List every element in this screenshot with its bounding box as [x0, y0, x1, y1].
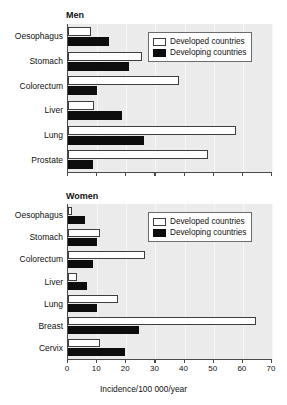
x-tick-label: 50 [201, 364, 225, 373]
bar-developing [68, 260, 93, 268]
x-tick [96, 359, 97, 363]
category-label: Oesophagus [15, 31, 63, 41]
x-tick [242, 172, 243, 176]
gridline [97, 204, 98, 359]
category-label: Colorectum [20, 81, 63, 91]
category-label: Oesophagus [15, 210, 63, 220]
legend-row-developing: Developing countries [153, 227, 246, 238]
legend-swatch-developing-icon [153, 49, 166, 57]
panel-title-women: Women [66, 191, 98, 201]
bar-developing [68, 160, 93, 169]
bar-developing [68, 37, 109, 46]
category-label: Colorectum [20, 254, 63, 264]
x-tick-label: 30 [142, 364, 166, 373]
category-label: Lung [44, 130, 63, 140]
x-tick [154, 359, 155, 363]
x-tick [184, 172, 185, 176]
bar-developing [68, 282, 87, 290]
bar-developed [68, 101, 94, 110]
bar-developing [68, 304, 97, 312]
bar-developing [68, 86, 97, 95]
legend-row-developed: Developed countries [153, 216, 246, 227]
bar-developing [68, 238, 97, 246]
legend-label-developed: Developed countries [170, 217, 245, 227]
x-tick [154, 172, 155, 176]
legend-swatch-developed-icon [153, 218, 166, 226]
category-label: Cervix [39, 343, 63, 353]
x-tick [125, 172, 126, 176]
legend-label-developing: Developing countries [170, 228, 246, 238]
gridline [272, 24, 273, 172]
category-label: Prostate [31, 155, 63, 165]
bar-developed [68, 317, 256, 325]
category-label: Breast [38, 321, 63, 331]
chart-panel-women: Women OesophagusStomachColorectumLiverLu… [0, 190, 287, 405]
legend-row-developed: Developed countries [153, 36, 246, 47]
x-tick-label: 10 [84, 364, 108, 373]
x-tick [213, 359, 214, 363]
category-labels-men: OesophagusStomachColorectumLiverLungPros… [0, 0, 63, 196]
bar-developing [68, 136, 144, 145]
x-tick-label: 20 [113, 364, 137, 373]
category-label: Liver [45, 277, 63, 287]
gridline [272, 204, 273, 359]
bar-developing [68, 348, 125, 356]
bar-developing [68, 62, 129, 71]
x-tick-label: 60 [230, 364, 254, 373]
bar-developing [68, 326, 139, 334]
bar-developed [68, 339, 100, 347]
bar-developing [68, 216, 85, 224]
legend-women: Developed countries Developing countries [148, 212, 252, 242]
category-label: Liver [45, 105, 63, 115]
bar-developed [68, 295, 118, 303]
category-label: Lung [44, 299, 63, 309]
gridline [126, 204, 127, 359]
x-tick [125, 359, 126, 363]
bar-developed [68, 76, 179, 85]
x-tick [213, 172, 214, 176]
legend-label-developing: Developing countries [170, 48, 246, 58]
x-tick-label: 70 [259, 364, 283, 373]
bar-developed [68, 52, 142, 61]
x-tick-label: 40 [172, 364, 196, 373]
category-labels-women: OesophagusStomachColorectumLiverLungBrea… [0, 190, 63, 405]
bar-developed [68, 273, 77, 281]
legend-swatch-developed-icon [153, 38, 166, 46]
x-tick [271, 172, 272, 176]
legend-men: Developed countries Developing countries [148, 32, 252, 62]
bar-developed [68, 207, 72, 215]
bar-developed [68, 126, 236, 135]
bar-developed [68, 27, 91, 36]
bar-developed [68, 229, 100, 237]
bar-developed [68, 150, 208, 159]
category-label: Stomach [29, 56, 63, 66]
chart-panel-men: Men OesophagusStomachColorectumLiverLung… [0, 0, 287, 196]
legend-row-developing: Developing countries [153, 47, 246, 58]
x-axis-title: Incidence/100 000/year [0, 384, 287, 394]
panel-title-men: Men [66, 10, 84, 20]
bar-developed [68, 251, 145, 259]
legend-label-developed: Developed countries [170, 37, 245, 47]
x-tick-label: 0 [55, 364, 79, 373]
x-tick [242, 359, 243, 363]
bar-developing [68, 111, 122, 120]
x-tick [67, 172, 68, 176]
x-tick [271, 359, 272, 363]
category-label: Stomach [29, 232, 63, 242]
x-tick [67, 359, 68, 363]
x-tick [96, 172, 97, 176]
legend-swatch-developing-icon [153, 229, 166, 237]
x-tick [184, 359, 185, 363]
